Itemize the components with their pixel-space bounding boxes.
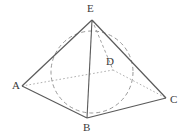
edge-BC (87, 98, 166, 118)
edge-AE (22, 20, 92, 86)
vertex-label-C: C (170, 94, 177, 105)
edge-AB (22, 86, 87, 118)
edge-DC (113, 70, 166, 98)
edge-CE (92, 20, 166, 98)
edge-EB (87, 20, 92, 118)
geometry-canvas (0, 0, 189, 137)
inscribed-sphere-circle (51, 31, 133, 113)
vertex-label-E: E (87, 3, 94, 14)
vertex-label-B: B (83, 122, 90, 133)
geometry-figure: A B C D E (0, 0, 189, 137)
vertex-label-A: A (12, 80, 20, 91)
vertex-label-D: D (106, 56, 114, 67)
